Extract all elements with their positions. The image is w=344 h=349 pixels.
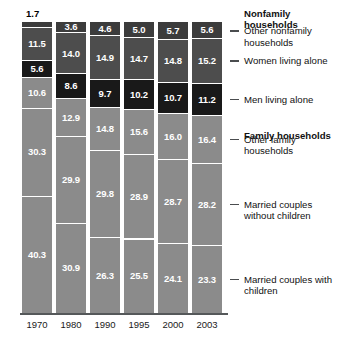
legend-leader-line [230,204,239,205]
bar-segment: 5.0 [124,22,154,37]
bar-segment-value: 5.7 [167,26,180,36]
bar-segment-value: 16.4 [198,135,216,145]
legend-leader-line [230,30,239,31]
bar-segment-value: 14.0 [62,49,80,59]
bar-segment-value: 40.3 [28,250,46,260]
bar-column-1980: 3.614.08.612.929.930.9 [56,22,86,313]
bar-segment: 25.5 [124,239,154,313]
bar-segment: 28.7 [158,159,188,243]
bar-segment-value: 10.2 [130,90,148,100]
bar-segment-value: 15.6 [130,127,148,137]
bar-segment-value: 9.7 [99,89,112,99]
bar-segment: 23.3 [192,245,222,313]
bar-segment-value: 28.7 [164,197,182,207]
bar-segment-value: 3.6 [65,22,78,32]
bar-segment: 16.0 [158,113,188,160]
bar-segment-value: 4.6 [99,24,112,34]
bar-segment: 15.2 [192,38,222,82]
bar-segment-value: 10.6 [28,88,46,98]
bar-segment-value: 14.7 [130,54,148,64]
legend-leader-line [230,279,239,280]
legend-leader-line [230,139,239,140]
legend-item-married-couples-with-children: Married couples with children [244,274,344,297]
bar-column-1995: 5.014.710.215.628.925.5 [124,22,154,313]
bar-column-2000: 5.714.810.716.028.724.1 [158,22,188,313]
bar-segment-value: 28.2 [198,200,216,210]
bar-segment: 10.6 [22,77,52,108]
bar-segment-value: 5.0 [133,25,146,35]
bar-segment-value: 30.9 [62,263,80,273]
bar-segment-value: 15.2 [198,56,216,66]
bar-segment-value: 23.3 [198,275,216,285]
bar-segment-value: 12.9 [62,113,80,123]
x-axis-baseline [20,313,228,315]
legend-item-men-living-alone: Men living alone [244,94,344,105]
bar-segment: 10.7 [158,82,188,113]
bar-segment: 5.7 [158,22,188,39]
bar-segment: 14.0 [56,32,86,73]
bar-segment: 14.8 [90,107,120,150]
bar-segment: 14.7 [124,37,154,80]
bar-column-2003: 5.615.211.216.428.223.3 [192,22,222,313]
bar-segment: 14.9 [90,35,120,78]
bar-segment: 4.6 [90,22,120,35]
bar-segment: 9.7 [90,79,120,107]
bar-segment: 14.8 [158,39,188,82]
x-tick-2003: 2003 [185,318,229,332]
bar-segment-value: 29.8 [96,189,114,199]
bar-segment: 15.6 [124,109,154,154]
bar-segment-value: 24.1 [164,274,182,284]
bar-segment-value: 26.3 [96,271,114,281]
bar-segment-value: 11.2 [198,95,216,105]
bar-segment: 28.9 [124,154,154,238]
bar-column-1970: 1.711.55.610.630.340.3 [22,22,52,313]
legend-item-other-nonfamily-households: Other nonfamily households [244,25,344,48]
bar-segment-value: 10.7 [164,93,182,103]
bar-segment: 16.4 [192,115,222,163]
bar-segment-value: 5.6 [201,25,214,35]
bar-segment: 3.6 [56,22,86,32]
bar-segment: 28.2 [192,163,222,245]
bar-segment-value-outside: 1.7 [26,9,39,19]
stacked-bar-chart: 1.711.55.610.630.340.33.614.08.612.929.9… [0,0,344,349]
bar-segment: 40.3 [22,196,52,313]
bar-segment-value: 8.6 [65,81,78,91]
legend-item-other-family-households: Other family households [244,134,344,157]
bar-segment-value: 14.8 [96,124,114,134]
bar-segment: 29.9 [56,136,86,223]
legend-item-women-living-alone: Women living alone [244,55,344,66]
chart-legend: Nonfamily householdsOther nonfamily hous… [230,0,344,349]
bar-segment-value: 29.9 [62,175,80,185]
bar-segment: 5.6 [192,22,222,38]
bar-segment-value: 16.0 [164,132,182,142]
legend-leader-line [230,60,239,61]
bar-segment: 5.6 [22,60,52,76]
bar-segment-value: 5.6 [31,64,44,74]
bar-segment: 8.6 [56,73,86,98]
bar-segment-value: 14.8 [164,56,182,66]
bar-segment: 11.2 [192,83,222,116]
legend-item-married-couples-without-children: Married couples without children [244,199,344,222]
bar-segment: 24.1 [158,243,188,313]
bar-segment: 26.3 [90,237,120,314]
bar-segment-value: 25.5 [130,271,148,281]
bar-column-1990: 4.614.99.714.829.826.3 [90,22,120,313]
bar-segment: 12.9 [56,98,86,136]
bar-segment-value: 14.9 [96,53,114,63]
x-axis-tick-labels: 197019801990199520002003 [22,318,226,334]
bar-segment: 11.5 [22,27,52,60]
bar-segment: 30.3 [22,108,52,196]
bar-segment-value: 30.3 [28,147,46,157]
bar-segment: 10.2 [124,79,154,109]
bar-segment-value: 11.5 [28,39,46,49]
bar-segment: 30.9 [56,223,86,313]
bar-segment: 29.8 [90,150,120,237]
plot-area: 1.711.55.610.630.340.33.614.08.612.929.9… [22,22,226,313]
bar-segment-value: 28.9 [130,192,148,202]
legend-leader-line [230,99,239,100]
